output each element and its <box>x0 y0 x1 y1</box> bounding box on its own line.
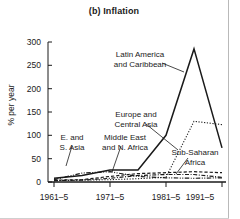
page-right-border <box>228 0 229 219</box>
annotation-europe-central-asia: Europe and Central Asia <box>100 110 172 129</box>
annotation-latin-america-line1: Latin America <box>98 50 182 60</box>
annotation-easia-line1: E. and <box>48 133 96 143</box>
annotation-middle-east-n-africa: Middle East and N. Africa <box>92 133 158 152</box>
annotation-mideast-line2: and N. Africa <box>92 143 158 153</box>
annotation-east-south-asia: E. and S. Asia <box>48 133 96 152</box>
annotation-europe-line2: Central Asia <box>100 120 172 130</box>
annotation-latin-america-line2: and Caribbean <box>98 60 182 70</box>
annotation-mideast-line1: Middle East <box>92 133 158 143</box>
inflation-chart-figure: (b) Inflation % per year 300 250 200 150… <box>0 0 240 219</box>
annotation-ssa-line1: Sub-Saharan <box>164 148 226 158</box>
page-bottom-border <box>0 218 229 219</box>
annotation-easia-line2: S. Asia <box>48 143 96 153</box>
annotation-sub-saharan-africa: Sub-Saharan Africa <box>164 148 226 167</box>
annotation-latin-america: Latin America and Caribbean <box>98 50 182 69</box>
annotation-ssa-line2: Africa <box>164 158 226 168</box>
y-axis-ticks <box>48 42 52 182</box>
annotation-europe-line1: Europe and <box>100 110 172 120</box>
